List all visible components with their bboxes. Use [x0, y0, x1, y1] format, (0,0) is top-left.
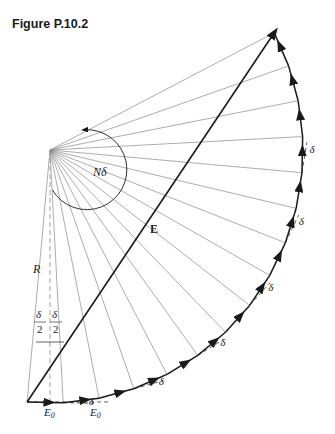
radial-line	[50, 150, 99, 398]
phasor-segment	[63, 400, 85, 403]
phasor-segment-tail	[292, 208, 296, 221]
phasor-segment	[167, 363, 186, 375]
phasor-segment-tail	[298, 101, 300, 115]
half-delta-den-right: 2	[53, 323, 59, 335]
radial-line	[50, 101, 298, 150]
delta-angle-label: δ	[309, 143, 315, 155]
half-delta-num-left: δ	[36, 308, 42, 320]
half-delta-den-left: 2	[37, 323, 43, 335]
phasor-segment	[198, 341, 215, 355]
radial-line	[50, 150, 302, 173]
delta-angle-label: δ	[159, 375, 165, 387]
resultant-label: E	[150, 222, 158, 236]
phasor-segment-tail	[289, 66, 293, 79]
phasor-segment-tail	[240, 305, 249, 315]
sweep-label: Nδ	[92, 165, 107, 179]
delta-angle-label: δ	[268, 281, 274, 293]
phasor-segment-tail	[186, 355, 198, 362]
phasor-segment	[270, 255, 280, 275]
radial-line	[50, 150, 225, 332]
phasor-segment	[280, 45, 289, 66]
delta-angle-label: δ	[220, 336, 226, 348]
phasor-segment	[134, 380, 155, 389]
phasor-segment-tail	[274, 33, 279, 46]
phasor-chain	[27, 33, 303, 403]
phasor-label-1: E0	[43, 406, 55, 420]
phasor-label-2: E0	[89, 406, 101, 420]
radial-line	[50, 33, 274, 150]
phasor-segment-tail	[300, 173, 302, 187]
resultant-arrow	[27, 33, 274, 402]
radial-lines	[27, 33, 303, 403]
phasor-segment	[296, 186, 300, 208]
delta-angle-label: δ	[299, 215, 305, 227]
phasor-segment	[250, 287, 262, 306]
radial-line	[50, 66, 289, 150]
phasor-segment	[285, 221, 292, 242]
labels: δδδδδδERNδδ2δ2E0E0	[32, 143, 315, 420]
resultant-phasor	[27, 33, 274, 402]
sweep-arc-path	[52, 130, 126, 210]
radial-line	[50, 150, 285, 243]
phasor-segment-tail	[121, 389, 134, 393]
phasor-segment	[292, 79, 298, 101]
radial-line	[50, 137, 303, 150]
phasor-diagram: δδδδδδERNδδ2δ2E0E0	[0, 0, 335, 434]
half-delta-num-right: δ	[52, 308, 58, 320]
radius-label: R	[32, 262, 41, 276]
phasor-segment-tail	[279, 243, 285, 255]
phasor-segment	[300, 114, 303, 136]
phasor-segment	[225, 316, 240, 333]
sweep-arc	[52, 130, 126, 210]
radial-line	[50, 150, 134, 389]
phasor-segment	[99, 392, 121, 398]
